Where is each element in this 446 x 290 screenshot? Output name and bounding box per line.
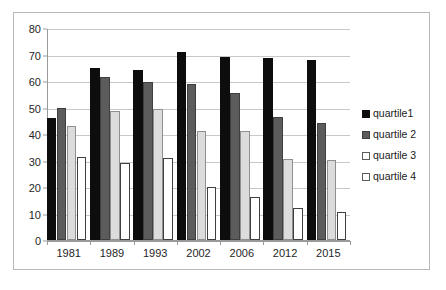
bar — [163, 158, 173, 240]
x-tick-label: 1993 — [143, 248, 167, 259]
bar — [177, 52, 187, 240]
x-tick-mark — [350, 241, 351, 245]
legend-label: quartile 4 — [373, 171, 416, 182]
y-tick-label: 0 — [35, 236, 41, 247]
y-tick-label: 60 — [29, 77, 41, 88]
y-tick-label: 30 — [29, 156, 41, 167]
bar — [263, 58, 273, 240]
legend-label: quartile 2 — [373, 129, 416, 140]
y-tick-label: 70 — [29, 50, 41, 61]
bar — [337, 212, 347, 240]
x-tick-mark — [220, 241, 221, 245]
bar — [327, 160, 337, 240]
white-square-icon — [362, 173, 370, 181]
bar — [47, 118, 57, 240]
bar — [67, 126, 77, 240]
x-tick-mark — [307, 241, 308, 245]
bar — [317, 123, 327, 240]
legend-item: quartile1 — [362, 103, 432, 124]
y-tick-label: 10 — [29, 209, 41, 220]
bar — [283, 159, 293, 240]
bar — [273, 117, 283, 240]
bar-group — [263, 29, 303, 240]
x-tick-mark — [134, 241, 135, 245]
y-tick-label: 80 — [29, 24, 41, 35]
bar — [133, 70, 143, 240]
bar — [293, 208, 303, 240]
plot-area — [47, 29, 350, 241]
x-tick-label: 1989 — [100, 248, 124, 259]
bars-layer — [48, 29, 350, 240]
legend-item: quartile 2 — [362, 124, 432, 145]
y-tick-label: 40 — [29, 130, 41, 141]
x-tick-label: 2002 — [186, 248, 210, 259]
bar — [143, 82, 153, 240]
y-tick-label: 20 — [29, 183, 41, 194]
y-tick-label: 50 — [29, 103, 41, 114]
x-axis: 1981198919932002200620122015 — [47, 241, 350, 267]
black-square-icon — [362, 110, 370, 118]
bar — [250, 197, 260, 240]
legend-item: quartile 4 — [362, 166, 432, 187]
bar-chart-figure: 01020304050607080 1981198919932002200620… — [0, 0, 446, 290]
bar — [220, 57, 230, 240]
bar — [100, 77, 110, 240]
bar — [307, 60, 317, 240]
x-tick-label: 2015 — [316, 248, 340, 259]
legend-label: quartile1 — [373, 108, 413, 119]
bar-group — [47, 29, 87, 240]
bar — [153, 109, 163, 240]
bar — [77, 157, 87, 240]
bar-group — [307, 29, 347, 240]
x-tick-label: 2012 — [273, 248, 297, 259]
x-tick-mark — [263, 241, 264, 245]
x-tick-label: 2006 — [230, 248, 254, 259]
gray-square-icon — [362, 131, 370, 139]
x-tick-mark — [90, 241, 91, 245]
bar — [110, 111, 120, 240]
bar — [230, 93, 240, 240]
bar-group — [90, 29, 130, 240]
x-tick-mark — [47, 241, 48, 245]
bar-group — [220, 29, 260, 240]
bar — [90, 68, 100, 240]
x-tick-label: 1981 — [56, 248, 80, 259]
y-axis: 01020304050607080 — [13, 29, 47, 241]
white-square-icon — [362, 152, 370, 160]
bar — [57, 108, 67, 241]
bar-group — [177, 29, 217, 240]
chart-legend: quartile1quartile 2quartile 3quartile 4 — [362, 103, 432, 187]
bar — [240, 131, 250, 240]
bar-group — [133, 29, 173, 240]
legend-item: quartile 3 — [362, 145, 432, 166]
legend-label: quartile 3 — [373, 150, 416, 161]
bar — [197, 131, 207, 240]
x-tick-mark — [177, 241, 178, 245]
bar — [187, 84, 197, 240]
bar — [207, 187, 217, 240]
bar — [120, 163, 130, 240]
